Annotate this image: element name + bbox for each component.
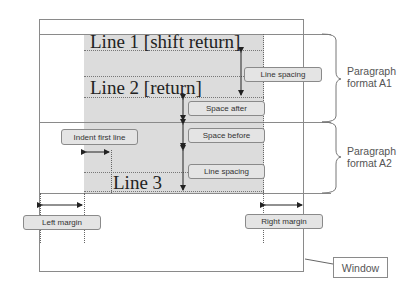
paragraph-a1-line2: format A1: [347, 77, 396, 89]
paragraph-format-a1: Paragraph format A1: [347, 65, 396, 89]
line-spacing-label-1: Line spacing: [244, 67, 322, 82]
line-spacing-label-2: Line spacing: [188, 164, 265, 179]
paragraph-a2-line2: format A2: [347, 157, 396, 169]
paragraph-format-a2: Paragraph format A2: [347, 145, 396, 169]
paragraph-a2-line1: Paragraph: [347, 145, 396, 157]
window-label: Window: [333, 257, 388, 278]
space-before-label: Space before: [188, 128, 265, 143]
space-after-label: Space after: [188, 101, 265, 116]
paragraph-a1-line1: Paragraph: [347, 65, 396, 77]
right-margin-label: Right margin: [245, 214, 323, 229]
indent-first-line-label: Indent first line: [61, 129, 138, 145]
left-margin-label: Left margin: [23, 215, 101, 230]
